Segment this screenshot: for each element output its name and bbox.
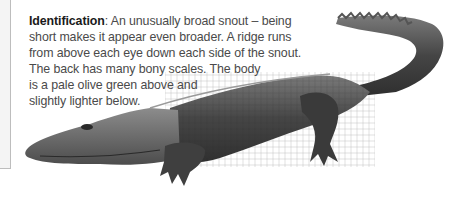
caption-line-2: short makes it appear even broader. A ri… xyxy=(29,29,269,45)
caption-line-5: is a pale olive green above and xyxy=(29,77,269,93)
identification-caption: Identification: An unusually broad snout… xyxy=(29,13,269,109)
caption-line-3: from above each eye down each side of th… xyxy=(29,45,269,61)
front-leg xyxy=(160,143,205,186)
caption-line-1: An unusually broad snout – being xyxy=(111,14,292,28)
eye xyxy=(81,124,93,130)
caption-line-6: slightly lighter below. xyxy=(29,93,269,109)
caption-line-4: The back has many bony scales. The body xyxy=(29,61,269,77)
caption-heading: Identification xyxy=(29,14,105,28)
